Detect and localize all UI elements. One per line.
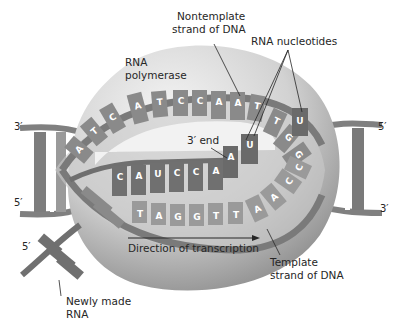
transcription-diagram: A T C A T C C A A T T G G C A U C C A A … [0,0,400,323]
label-direction: Direction of transcription [128,242,259,254]
base-label: U [154,169,161,179]
base-label: C [178,96,185,106]
base-label: C [193,167,200,177]
end-rna-5prime: 5′ [22,241,31,252]
base-label: T [233,210,240,220]
end-left-bottom: 5′ [14,197,23,208]
base-label: G [193,212,200,222]
label-rna-polymerase-line2: polymerase [125,69,187,81]
base-label: C [174,168,181,178]
end-right-bottom: 3′ [380,203,389,214]
label-template-line1: Template [269,256,318,268]
label-newly-made-rna-line2: RNA [66,308,89,320]
label-rna-nucleotides: RNA nucleotides [251,35,337,47]
base-label: A [213,166,220,176]
label-three-prime-end: 3′ end [187,134,219,146]
base-label: T [137,209,144,219]
base-label: A [228,152,235,162]
base-label: G [174,212,181,222]
base-label: T [213,211,220,221]
end-right-top: 5′ [378,121,387,132]
label-nontemplate-line2: strand of DNA [172,23,246,35]
label-rna-polymerase-line1: RNA [125,56,148,68]
base-label: C [197,96,204,106]
base-label: C [117,172,124,182]
base-label: A [235,98,242,108]
base-label: A [156,211,163,221]
end-left-top: 3′ [14,121,23,132]
base-label: U [246,140,253,150]
label-nontemplate-line1: Nontemplate [177,10,245,22]
base-label: A [216,97,223,107]
base-label: U [296,116,303,126]
label-template-line2: strand of DNA [270,269,344,281]
label-newly-made-rna-line1: Newly made [66,295,131,307]
base-label: A [136,171,143,181]
